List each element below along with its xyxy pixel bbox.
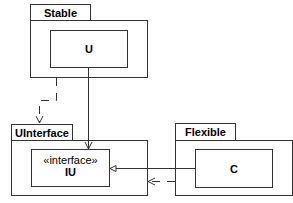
- package-stable-label: Stable: [30, 4, 91, 21]
- open-arrow-icon: [36, 116, 43, 123]
- class-iu-stereotype: «interface»: [31, 154, 110, 166]
- class-iu-label: IU: [31, 166, 110, 178]
- class-c-label: C: [195, 149, 273, 188]
- class-u-label: U: [50, 30, 128, 68]
- package-uinterface-label: UInterface: [11, 124, 73, 141]
- hollow-triangle-icon: [110, 166, 116, 172]
- package-flexible-label: Flexible: [175, 123, 236, 141]
- dependency-stable-to-uinterface: [40, 78, 57, 122]
